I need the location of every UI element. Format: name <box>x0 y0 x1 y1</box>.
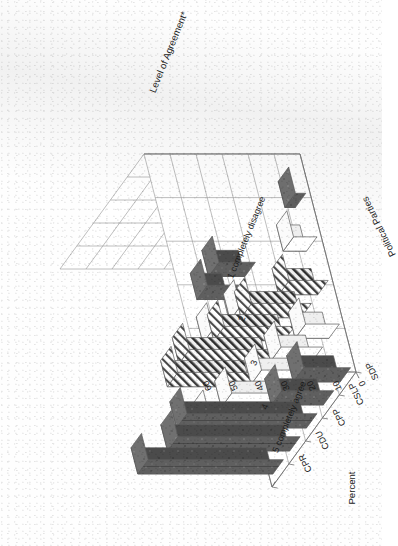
axis-title-percent: Percent <box>347 471 357 504</box>
